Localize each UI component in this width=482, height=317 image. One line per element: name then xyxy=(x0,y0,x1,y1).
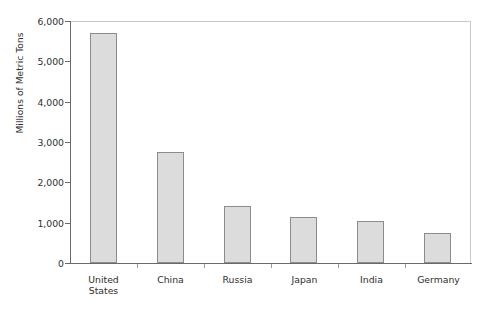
y-tick-label-1000: 1,000 xyxy=(20,219,64,228)
y-tick-label-5000: 5,000 xyxy=(20,57,64,66)
y-tick-label-3000: 3,000 xyxy=(20,138,64,147)
bar-united-states[interactable] xyxy=(90,33,117,263)
x-tick-mark-1 xyxy=(137,264,138,268)
x-tick-mark-4 xyxy=(338,264,339,268)
y-tick-label-6000: 6,000 xyxy=(20,17,64,26)
bar-india[interactable] xyxy=(357,221,384,263)
y-axis-line xyxy=(70,21,71,264)
x-category-label-russia: Russia xyxy=(204,274,271,285)
x-category-label-united-states: United States xyxy=(70,274,137,296)
y-tick-label-4000: 4,000 xyxy=(20,98,64,107)
x-category-label-china: China xyxy=(137,274,204,285)
x-category-label-japan: Japan xyxy=(271,274,338,285)
x-category-label-india: India xyxy=(338,274,405,285)
bar-russia[interactable] xyxy=(224,206,251,263)
x-tick-mark-2 xyxy=(204,264,205,268)
y-tick-label-0: 0 xyxy=(20,259,64,268)
x-category-label-germany: Germany xyxy=(405,274,472,285)
y-axis-tick-labels: 6,000 5,000 4,000 3,000 2,000 1,000 0 xyxy=(14,0,64,317)
bar-japan[interactable] xyxy=(290,217,317,263)
y-tick-label-2000: 2,000 xyxy=(20,178,64,187)
x-tick-mark-5 xyxy=(405,264,406,268)
x-tick-mark-3 xyxy=(271,264,272,268)
bar-germany[interactable] xyxy=(424,233,451,263)
bar-chart: Millions of Metric Tons 6,000 5,000 4,00… xyxy=(0,0,482,317)
plot-area xyxy=(70,21,471,263)
bar-china[interactable] xyxy=(157,152,184,263)
